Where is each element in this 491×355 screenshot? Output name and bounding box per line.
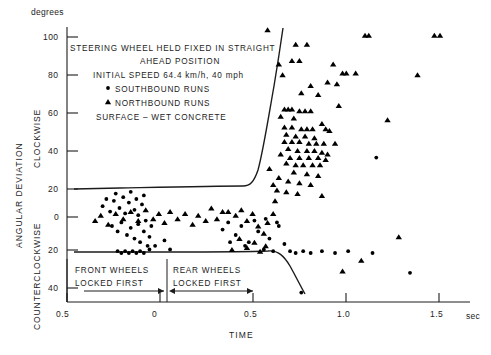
data-point-triangle bbox=[283, 132, 289, 137]
data-point-triangle bbox=[281, 125, 287, 130]
data-point-triangle bbox=[315, 92, 321, 97]
data-point-triangle bbox=[225, 209, 231, 214]
data-point-circle bbox=[116, 249, 120, 253]
data-point-triangle bbox=[270, 182, 276, 187]
data-point-triangle bbox=[283, 189, 289, 194]
data-point-triangle bbox=[324, 80, 330, 85]
data-point-triangle bbox=[317, 162, 323, 167]
plot-canvas bbox=[0, 0, 491, 355]
axis-lines bbox=[67, 27, 470, 302]
data-point-triangle bbox=[291, 170, 297, 175]
data-point-triangle bbox=[238, 207, 244, 212]
data-point-triangle bbox=[294, 148, 300, 153]
data-point-triangle bbox=[352, 71, 358, 76]
data-point-circle bbox=[118, 206, 122, 210]
data-point-triangle bbox=[358, 258, 364, 263]
data-point-circle bbox=[125, 233, 129, 237]
data-point-circle bbox=[283, 242, 287, 246]
y-axis-ticks bbox=[67, 37, 78, 288]
data-point-triangle bbox=[287, 155, 293, 160]
data-point-triangle bbox=[414, 72, 420, 77]
data-point-triangle bbox=[167, 209, 173, 214]
data-point-circle bbox=[148, 235, 152, 239]
data-point-triangle bbox=[251, 240, 257, 245]
data-point-triangle bbox=[135, 218, 141, 223]
data-point-triangle bbox=[203, 218, 209, 223]
data-point-circle bbox=[108, 210, 112, 214]
data-point-circle bbox=[144, 219, 148, 223]
data-point-circle bbox=[271, 249, 275, 253]
data-point-triangle bbox=[274, 188, 280, 193]
data-point-circle bbox=[119, 251, 123, 255]
data-point-triangle bbox=[437, 33, 443, 38]
data-point-triangle bbox=[277, 114, 283, 119]
data-point-triangle bbox=[311, 148, 317, 153]
data-point-triangle bbox=[266, 166, 272, 171]
data-point-triangle bbox=[292, 162, 298, 167]
data-point-triangle bbox=[321, 141, 327, 146]
data-point-circle bbox=[333, 251, 337, 255]
data-point-triangle bbox=[431, 33, 437, 38]
data-point-triangle bbox=[307, 83, 313, 88]
data-point-circle bbox=[138, 249, 142, 253]
data-point-triangle bbox=[292, 42, 298, 47]
data-point-triangle bbox=[304, 126, 310, 131]
data-point-triangle bbox=[182, 211, 188, 216]
data-point-triangle bbox=[315, 155, 321, 160]
data-point-circle bbox=[163, 239, 167, 243]
data-point-triangle bbox=[298, 126, 304, 131]
data-point-triangle bbox=[332, 141, 338, 146]
data-point-triangle bbox=[174, 216, 180, 221]
data-point-triangle bbox=[311, 135, 317, 140]
data-point-triangle bbox=[283, 161, 289, 166]
data-point-circle bbox=[239, 224, 243, 228]
data-point-circle bbox=[301, 249, 305, 253]
data-point-triangle bbox=[296, 180, 302, 185]
data-point-triangle bbox=[219, 209, 225, 214]
data-point-circle bbox=[134, 197, 138, 201]
data-point-circle bbox=[104, 197, 108, 201]
data-point-triangle bbox=[270, 211, 276, 216]
data-point-circle bbox=[299, 291, 303, 295]
data-point-triangle bbox=[302, 134, 308, 139]
data-point-triangle bbox=[276, 62, 282, 67]
data-point-triangle bbox=[302, 108, 308, 113]
data-point-triangle bbox=[309, 126, 315, 131]
data-point-circle bbox=[346, 249, 350, 253]
data-point-circle bbox=[133, 208, 137, 212]
data-point-circle bbox=[309, 251, 313, 255]
data-point-circle bbox=[136, 213, 140, 217]
data-point-circle bbox=[142, 194, 146, 198]
data-point-circle bbox=[275, 221, 279, 225]
data-point-circle bbox=[146, 244, 150, 248]
data-point-triangle bbox=[304, 148, 310, 153]
data-point-triangle bbox=[289, 58, 295, 63]
data-point-triangle bbox=[285, 179, 291, 184]
data-point-triangle bbox=[330, 62, 336, 67]
data-point-triangle bbox=[296, 58, 302, 63]
data-points-layer bbox=[92, 27, 443, 294]
data-point-triangle bbox=[304, 171, 310, 176]
data-point-circle bbox=[234, 233, 238, 237]
data-point-triangle bbox=[161, 220, 167, 225]
data-point-circle bbox=[129, 190, 133, 194]
data-point-triangle bbox=[300, 162, 306, 167]
data-point-triangle bbox=[324, 152, 330, 157]
data-point-triangle bbox=[294, 191, 300, 196]
data-point-triangle bbox=[396, 234, 402, 239]
data-point-triangle bbox=[319, 121, 325, 126]
data-point-circle bbox=[253, 219, 257, 223]
data-point-triangle bbox=[279, 72, 285, 77]
data-point-circle bbox=[138, 240, 142, 244]
data-point-triangle bbox=[304, 42, 310, 47]
data-point-triangle bbox=[292, 134, 298, 139]
data-point-triangle bbox=[236, 236, 242, 241]
data-point-circle bbox=[133, 237, 137, 241]
data-point-triangle bbox=[334, 81, 340, 86]
data-point-triangle bbox=[272, 198, 278, 203]
data-point-triangle bbox=[262, 243, 268, 248]
data-point-circle bbox=[153, 244, 157, 248]
data-point-triangle bbox=[233, 213, 239, 218]
data-point-circle bbox=[221, 228, 225, 232]
data-point-circle bbox=[114, 192, 118, 196]
